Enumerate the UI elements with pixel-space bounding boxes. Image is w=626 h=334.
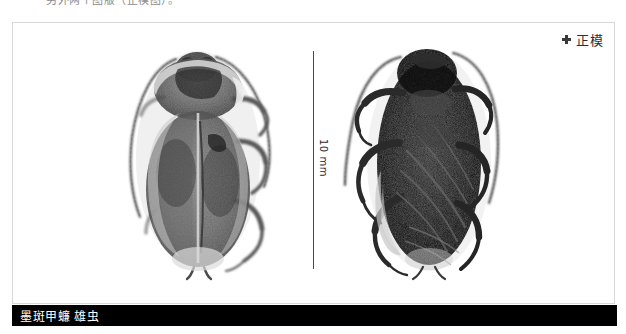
scale-bar-line xyxy=(313,51,314,269)
ventral-specimen-illustration xyxy=(331,31,521,281)
caption-bar: 墨斑甲蠊 雄虫 xyxy=(12,305,617,326)
header-text: 另外两个图版（正模图）。 xyxy=(46,0,179,7)
caption-text: 墨斑甲蠊 雄虫 xyxy=(12,307,99,324)
specimen-image-area: 10 mm xyxy=(13,23,614,303)
scale-bar: 10 mm xyxy=(309,51,343,275)
specimen-ventral-view xyxy=(331,31,521,281)
specimen-dorsal-view xyxy=(108,31,288,281)
scale-bar-label: 10 mm xyxy=(318,139,329,177)
figure-plate: 正模 xyxy=(12,22,615,304)
dorsal-specimen-illustration xyxy=(108,31,288,281)
clipped-header-line: 另外两个图版（正模图）。 xyxy=(0,0,626,7)
